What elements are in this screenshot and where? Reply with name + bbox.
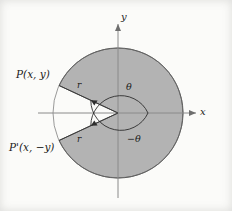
y-axis-label: y xyxy=(121,12,127,22)
x-axis-label: x xyxy=(200,107,206,117)
math-figure-circle-angle: y x P(x, y) P'(x, −y) r r θ −θ xyxy=(0,0,232,211)
y-axis-arrowhead xyxy=(115,24,121,31)
point-label-p: P(x, y) xyxy=(16,69,50,80)
point-label-p-prime: P'(x, −y) xyxy=(9,142,54,153)
x-axis-arrowhead xyxy=(189,110,196,116)
angle-label-theta: θ xyxy=(126,82,132,92)
angle-label-negative-theta: −θ xyxy=(127,134,141,144)
radius-label-lower: r xyxy=(77,135,81,144)
radius-label-upper: r xyxy=(77,81,81,90)
diagram-canvas xyxy=(0,0,232,211)
